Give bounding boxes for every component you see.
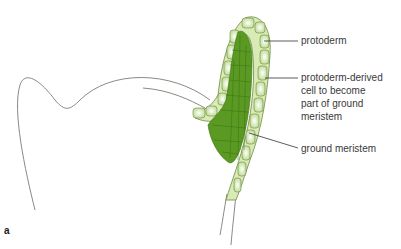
label-protoderm-derived-1: protoderm-derived xyxy=(301,72,383,84)
label-protoderm: protoderm xyxy=(301,35,347,47)
label-ground-meristem: ground meristem xyxy=(301,143,376,155)
label-protoderm-derived-2: cell to become xyxy=(301,85,365,97)
label-protoderm-derived-3: part of ground xyxy=(301,98,363,110)
leaf-primordium-outline xyxy=(18,78,210,211)
stem-outline-right xyxy=(231,194,236,245)
panel-label: a xyxy=(4,225,10,236)
label-protoderm-derived-4: meristem xyxy=(301,111,342,123)
